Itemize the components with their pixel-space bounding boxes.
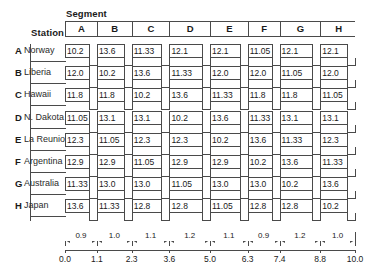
value-cell: 12.1 <box>169 44 203 58</box>
value-cell: 12.0 <box>210 66 241 80</box>
value-cell: 11.33 <box>248 111 273 125</box>
value-cell: 12.8 <box>248 199 273 213</box>
value-cell: 10.2 <box>210 133 241 147</box>
value-cell: 11.05 <box>169 177 203 191</box>
segment-header-h: H <box>321 22 356 36</box>
segment-header-a: A <box>66 22 98 36</box>
axis-tick <box>355 250 356 253</box>
wave-riser <box>169 169 170 177</box>
value-cell: 13.1 <box>280 111 314 125</box>
axis-tick-label: 8.8 <box>306 254 334 265</box>
wave-riser <box>280 80 281 88</box>
value-cell: 11.05 <box>65 111 90 125</box>
wave-riser <box>169 213 170 221</box>
value-cell: 10.2 <box>132 88 163 102</box>
wave-riser <box>97 147 98 155</box>
value-cell: 12.3 <box>169 133 203 147</box>
wave-riser <box>355 58 356 66</box>
value-cell: 13.6 <box>132 66 163 80</box>
dimension-tick <box>355 232 356 246</box>
value-cell: 10.2 <box>97 66 125 80</box>
wave-riser <box>169 125 170 133</box>
wave-riser <box>210 58 211 66</box>
wave-riser <box>355 191 356 199</box>
value-cell: 13.0 <box>97 177 125 191</box>
axis-tick-label: 2.3 <box>118 254 146 265</box>
station-name-n-dakota: N. Dakota <box>24 112 65 123</box>
value-cell: 12.8 <box>132 199 163 213</box>
wave-riser <box>132 213 133 221</box>
wave-riser <box>97 169 98 177</box>
wave-riser <box>280 147 281 155</box>
wave-riser <box>210 102 211 110</box>
value-cell: 13.1 <box>132 111 163 125</box>
segment-header-b: B <box>98 22 133 36</box>
axis-tick <box>132 250 133 253</box>
axis-tick-label: 1.1 <box>83 254 111 265</box>
wave-riser <box>355 213 356 221</box>
segment-width-label: 1.2 <box>280 231 321 241</box>
value-cell: 11.33 <box>132 44 163 58</box>
station-row-rule <box>30 172 66 173</box>
value-cell: 12.0 <box>248 66 273 80</box>
table-row: 11.3313.013.011.0513.013.010.213.6 <box>65 177 355 200</box>
wave-riser <box>248 191 249 199</box>
axis-tick <box>97 250 98 253</box>
wave-riser <box>132 169 133 177</box>
wave-riser <box>210 125 211 133</box>
wave-riser <box>210 191 211 199</box>
value-cell: 10.2 <box>169 111 203 125</box>
wave-riser <box>320 191 321 199</box>
value-cell: 12.0 <box>65 66 90 80</box>
value-cell: 13.0 <box>210 177 241 191</box>
wave-riser <box>132 191 133 199</box>
wave-riser <box>97 80 98 88</box>
wave-riser <box>355 169 356 177</box>
wave-riser <box>210 147 211 155</box>
wave-riser <box>320 169 321 177</box>
wave-riser <box>280 125 281 133</box>
value-cell: 11.33 <box>65 177 90 191</box>
wave-riser <box>132 147 133 155</box>
table-row: 12.311.0512.312.310.213.611.3312.3 <box>65 133 355 156</box>
table-row: 10.213.611.3312.112.111.0512.112.1 <box>65 44 355 67</box>
table-row: 13.611.3312.812.811.0512.812.810.2 <box>65 199 355 222</box>
table-row: 12.010.213.611.3312.012.011.0512.0 <box>65 66 355 89</box>
wave-riser <box>248 102 249 110</box>
value-cell: 13.6 <box>210 111 241 125</box>
value-cell: 13.1 <box>97 111 125 125</box>
value-cell: 12.9 <box>65 155 90 169</box>
wave-riser <box>280 169 281 177</box>
wave-riser <box>320 125 321 133</box>
station-row-rule <box>30 216 66 217</box>
wave-riser <box>280 213 281 221</box>
value-cell: 12.8 <box>169 199 203 213</box>
wave-riser <box>169 80 170 88</box>
table-row: 11.0513.113.110.213.611.3313.113.1 <box>65 111 355 134</box>
station-caption: Station <box>18 27 64 38</box>
numeric-axis: 0.01.12.33.65.06.37.48.810.0 <box>65 250 355 272</box>
wave-riser <box>320 80 321 88</box>
value-cell: 11.05 <box>320 88 348 102</box>
wave-riser <box>97 191 98 199</box>
segment-width-label: 0.9 <box>248 231 280 241</box>
station-row-rule <box>30 194 66 195</box>
value-cell: 12.1 <box>280 44 314 58</box>
wave-riser <box>97 102 98 110</box>
table-row: 11.811.810.213.611.3311.811.811.05 <box>65 88 355 111</box>
segment-width-label: 1.2 <box>169 231 210 241</box>
station-name-liberia: Liberia <box>24 67 65 78</box>
wave-riser <box>132 58 133 66</box>
axis-tick-label: 10.0 <box>341 254 368 265</box>
axis-tick <box>248 250 249 253</box>
station-row-rule <box>30 128 66 129</box>
segment-width-label: 1.1 <box>132 231 170 241</box>
value-cell: 11.8 <box>65 88 90 102</box>
value-cell: 11.05 <box>97 133 125 147</box>
axis-tick-label: 0.0 <box>51 254 79 265</box>
wave-riser <box>320 147 321 155</box>
wave-riser <box>132 125 133 133</box>
value-cell: 11.8 <box>97 88 125 102</box>
station-name-norway: Norway <box>24 45 65 56</box>
station-name-australia: Australia <box>24 178 65 189</box>
